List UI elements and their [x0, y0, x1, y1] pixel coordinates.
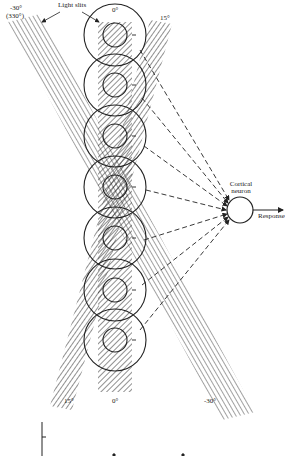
- cortical-neuron-label: Cortical neuron: [226, 181, 256, 196]
- cortical-neuron: [227, 197, 253, 223]
- angle-label-top-minus30: -30°: [10, 5, 22, 12]
- light-slits-label: Light slits: [58, 2, 86, 9]
- angle-label-top-330: (330°): [6, 13, 24, 20]
- angle-label-bottom-minus30: -30°: [204, 398, 216, 405]
- cortical-label-line2: neuron: [226, 188, 256, 195]
- angle-label-top-15: 15°: [160, 15, 170, 22]
- response-trace: [42, 422, 184, 456]
- angle-label-bottom-0: 0°: [112, 398, 118, 405]
- angle-label-bottom-15: 15°: [64, 398, 74, 405]
- angle-label-top-0: 0°: [112, 7, 118, 14]
- response-label: Response: [258, 213, 285, 220]
- receptive-field-diagram: [0, 0, 285, 456]
